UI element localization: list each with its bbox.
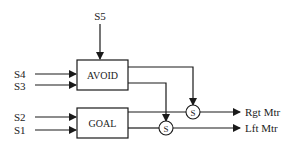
output-label-right-motor: Rgt Mtr [245, 106, 280, 118]
input-label-s1: S1 [14, 124, 26, 136]
avoid-block-label: AVOID [87, 70, 118, 81]
output-label-left-motor: Lft Mtr [245, 122, 278, 134]
input-label-s4: S4 [14, 68, 26, 80]
behavior-block-diagram: S5 AVOID S4 S3 GOAL S2 S1 S S Rgt Mtr Lf… [0, 0, 298, 148]
goal-block-label: GOAL [89, 118, 117, 129]
input-label-s5: S5 [94, 10, 106, 22]
avoid-to-left-summer-line [128, 83, 166, 121]
right-summer-label: S [190, 108, 195, 118]
input-label-s2: S2 [14, 111, 26, 123]
avoid-to-right-summer-line [128, 67, 193, 105]
input-label-s3: S3 [14, 80, 26, 92]
left-summer-label: S [163, 124, 168, 134]
